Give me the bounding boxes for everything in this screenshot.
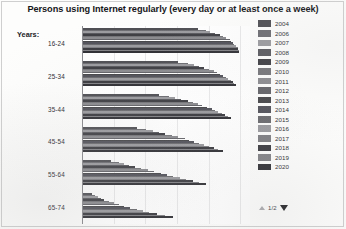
legend-swatch-2012	[258, 87, 271, 94]
legend-label: 2014	[275, 106, 289, 113]
legend-swatch-2014	[258, 106, 271, 113]
legend[interactable]: 2004200620072008200920102011201220132014…	[258, 19, 314, 172]
legend-item-2010[interactable]: 2010	[258, 67, 314, 77]
category-axis-labels: 16-2425-3435-4445-5455-6465-74	[33, 28, 80, 224]
legend-label: 2018	[275, 144, 289, 151]
legend-item-2016[interactable]: 2016	[258, 124, 314, 134]
legend-swatch-2013	[258, 97, 271, 104]
legend-item-2013[interactable]: 2013	[258, 95, 314, 105]
legend-label: 2010	[275, 68, 289, 75]
legend-label: 2007	[275, 39, 289, 46]
bar-group-55-64	[82, 158, 250, 191]
legend-swatch-2018	[258, 145, 271, 152]
legend-swatch-2008	[258, 49, 271, 56]
legend-item-2008[interactable]: 2008	[258, 48, 314, 58]
legend-label: 2013	[275, 97, 289, 104]
bar-group-25-34	[82, 59, 250, 92]
legend-swatch-2017	[258, 135, 271, 142]
legend-label: 2020	[275, 163, 289, 170]
legend-label: 2012	[275, 87, 289, 94]
bar-45-54-2020[interactable]	[82, 150, 223, 152]
category-label-25-34: 25-34	[33, 73, 80, 80]
legend-label: 2004	[275, 20, 289, 27]
legend-item-2020[interactable]: 2020	[258, 162, 314, 172]
legend-item-2019[interactable]: 2019	[258, 153, 314, 163]
category-label-55-64: 55-64	[33, 171, 80, 178]
legend-pagination[interactable]: 1/2	[259, 205, 288, 211]
bar-55-64-2020[interactable]	[82, 183, 206, 185]
legend-swatch-2009	[258, 59, 271, 66]
legend-swatch-2011	[258, 78, 271, 85]
legend-label: 2009	[275, 58, 289, 65]
legend-item-2007[interactable]: 2007	[258, 38, 314, 48]
legend-label: 2006	[275, 30, 289, 37]
legend-swatch-2010	[258, 68, 271, 75]
bar-group-45-54	[82, 125, 250, 158]
legend-item-2009[interactable]: 2009	[258, 57, 314, 67]
legend-item-2014[interactable]: 2014	[258, 105, 314, 115]
legend-swatch-2004	[258, 20, 271, 27]
triangle-down-icon[interactable]	[280, 205, 288, 211]
legend-label: 2008	[275, 49, 289, 56]
bar-group-65-74	[82, 191, 250, 224]
legend-swatch-2007	[258, 40, 271, 47]
legend-swatch-2006	[258, 30, 271, 37]
legend-label: 2017	[275, 135, 289, 142]
legend-swatch-2016	[258, 125, 271, 132]
category-label-16-24: 16-24	[33, 40, 80, 47]
bar-25-34-2020[interactable]	[82, 84, 236, 86]
category-label-65-74: 65-74	[33, 204, 80, 211]
bar-group-35-44	[82, 92, 250, 125]
bar-group-16-24	[82, 26, 250, 59]
legend-item-2012[interactable]: 2012	[258, 86, 314, 96]
legend-item-2017[interactable]: 2017	[258, 134, 314, 144]
plot-area	[82, 26, 250, 224]
bar-65-74-2020[interactable]	[82, 216, 173, 218]
legend-swatch-2020	[258, 164, 271, 171]
legend-item-2006[interactable]: 2006	[258, 29, 314, 39]
category-label-35-44: 35-44	[33, 106, 80, 113]
legend-item-2018[interactable]: 2018	[258, 143, 314, 153]
legend-label: 2011	[275, 78, 289, 85]
legend-label: 2016	[275, 125, 289, 132]
triangle-up-icon[interactable]	[259, 206, 265, 210]
legend-swatch-2015	[258, 116, 271, 123]
legend-label: 2019	[275, 154, 289, 161]
bar-16-24-2020[interactable]	[82, 51, 239, 53]
legend-page-indicator: 1/2	[268, 205, 277, 211]
legend-item-2015[interactable]: 2015	[258, 114, 314, 124]
category-label-45-54: 45-54	[33, 138, 80, 145]
page-title: Persons using Internet regularly (every …	[0, 4, 346, 14]
legend-item-2011[interactable]: 2011	[258, 76, 314, 86]
legend-item-2004[interactable]: 2004	[258, 19, 314, 29]
legend-label: 2015	[275, 116, 289, 123]
legend-swatch-2019	[258, 154, 271, 161]
chart-screenshot: Persons using Internet regularly (every …	[0, 0, 346, 229]
bar-35-44-2020[interactable]	[82, 117, 231, 119]
